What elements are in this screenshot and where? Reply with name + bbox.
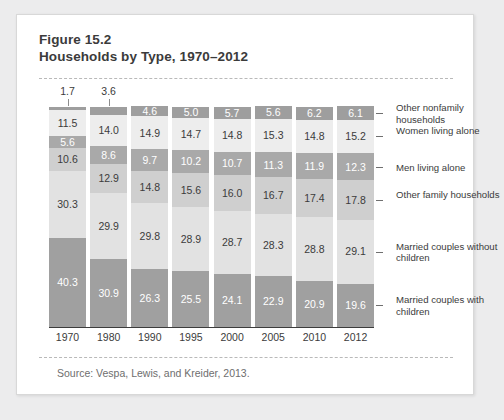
segment-value: 10.6: [57, 154, 77, 165]
segment-1990-3[interactable]: 14.8: [131, 171, 168, 204]
segment-2000-2[interactable]: 28.7: [214, 211, 251, 274]
segment-value: 11.5: [58, 118, 78, 129]
segment-1970-1[interactable]: 40.3: [49, 238, 86, 327]
segment-value: 5.6: [60, 137, 75, 148]
bar-1970[interactable]: 11.55.610.630.340.3: [49, 107, 86, 328]
segment-value: 15.2: [345, 131, 365, 142]
legend-item-1[interactable]: Other nonfamily households: [396, 102, 504, 125]
segment-1995-3[interactable]: 15.6: [172, 173, 209, 207]
segment-value: 8.6: [101, 150, 116, 161]
segment-value: 9.7: [142, 155, 157, 166]
segment-1995-4[interactable]: 10.2: [172, 150, 209, 172]
bar-2000[interactable]: 5.714.810.716.028.724.1: [214, 107, 251, 328]
segment-value: 25.5: [181, 294, 201, 305]
legend-item-4[interactable]: Other family households: [396, 189, 504, 201]
stacked-bar-chart: 11.55.610.630.340.31.7197014.08.612.929.…: [17, 15, 475, 396]
legend-item-6[interactable]: Married couples with children: [396, 294, 504, 317]
segment-value: 17.4: [304, 193, 324, 204]
segment-2000-1[interactable]: 24.1: [214, 274, 251, 327]
bar-2005[interactable]: 5.615.311.316.728.322.9: [255, 106, 292, 327]
segment-1990-2[interactable]: 29.8: [131, 203, 168, 269]
bar-2010[interactable]: 6.214.811.917.428.820.9: [296, 107, 333, 328]
segment-value: 28.7: [222, 237, 242, 248]
segment-value: 11.9: [305, 161, 325, 172]
segment-1995-2[interactable]: 28.9: [172, 207, 209, 271]
segment-2000-5[interactable]: 14.8: [214, 119, 251, 152]
segment-1990-1[interactable]: 26.3: [131, 269, 168, 327]
segment-value: 14.7: [181, 129, 201, 140]
segment-2010-2[interactable]: 28.8: [296, 217, 333, 281]
segment-value: 29.8: [140, 231, 160, 242]
bar-1995[interactable]: 5.014.710.215.628.925.5: [172, 107, 209, 327]
segment-1970-3[interactable]: 10.6: [49, 148, 86, 171]
segment-2012-1[interactable]: 19.6: [337, 284, 374, 327]
segment-1990-4[interactable]: 9.7: [131, 149, 168, 170]
segment-2000-4[interactable]: 10.7: [214, 152, 251, 176]
segment-2012-4[interactable]: 12.3: [337, 153, 374, 180]
x-axis-label-2005: 2005: [255, 331, 292, 343]
segment-value: 12.9: [98, 173, 118, 184]
segment-1980-4[interactable]: 8.6: [90, 146, 127, 165]
x-axis-label-1990: 1990: [131, 331, 168, 343]
segment-2010-4[interactable]: 11.9: [296, 153, 333, 179]
segment-value: 14.8: [140, 182, 160, 193]
legend-leader-line: [376, 167, 383, 168]
segment-1995-1[interactable]: 25.5: [172, 271, 209, 327]
legend-leader-line: [376, 305, 383, 306]
segment-value: 16.0: [222, 188, 242, 199]
segment-2005-5[interactable]: 15.3: [255, 119, 292, 153]
bar-1990[interactable]: 4.614.99.714.829.826.3: [131, 106, 168, 327]
segment-1980-1[interactable]: 30.9: [90, 259, 127, 327]
segment-2000-6[interactable]: 5.7: [214, 107, 251, 120]
segment-value: 14.8: [304, 131, 324, 142]
x-axis-label-2000: 2000: [214, 331, 251, 343]
segment-2005-3[interactable]: 16.7: [255, 177, 292, 214]
segment-2005-4[interactable]: 11.3: [255, 152, 292, 177]
segment-2012-6[interactable]: 6.1: [337, 106, 374, 119]
tick-1970: [68, 99, 69, 106]
segment-2005-6[interactable]: 5.6: [255, 106, 292, 118]
segment-1980-3[interactable]: 12.9: [90, 164, 127, 192]
segment-value: 24.1: [222, 295, 242, 306]
segment-value: 14.8: [222, 130, 242, 141]
bar-2012[interactable]: 6.115.212.317.829.119.6: [337, 106, 374, 327]
bar-1980[interactable]: 14.08.612.929.930.9: [90, 107, 127, 327]
segment-2012-2[interactable]: 29.1: [337, 220, 374, 284]
segment-1995-6[interactable]: 5.0: [172, 107, 209, 118]
segment-1970-5[interactable]: 11.5: [49, 110, 86, 135]
segment-2005-1[interactable]: 22.9: [255, 276, 292, 326]
legend-item-3[interactable]: Men living alone: [396, 162, 504, 174]
segment-1990-5[interactable]: 14.9: [131, 116, 168, 149]
x-axis-label-2012: 2012: [337, 331, 374, 343]
segment-value: 28.8: [304, 244, 324, 255]
legend-item-5[interactable]: Married couples without children: [396, 241, 504, 264]
segment-value: 26.3: [140, 293, 160, 304]
legend-item-2[interactable]: Women living alone: [396, 125, 504, 137]
segment-1990-6[interactable]: 4.6: [131, 106, 168, 116]
segment-1970-4[interactable]: 5.6: [49, 136, 86, 148]
segment-value: 5.0: [184, 107, 199, 118]
segment-2012-5[interactable]: 15.2: [337, 120, 374, 154]
segment-1980-2[interactable]: 29.9: [90, 193, 127, 259]
segment-value: 28.9: [181, 234, 201, 245]
top-value-label-1980: 3.6: [90, 85, 127, 97]
tick-1980: [109, 99, 110, 106]
segment-2005-2[interactable]: 28.3: [255, 214, 292, 276]
segment-value: 28.3: [263, 240, 283, 251]
segment-2010-3[interactable]: 17.4: [296, 179, 333, 217]
segment-2010-6[interactable]: 6.2: [296, 107, 333, 121]
segment-2012-3[interactable]: 17.8: [337, 180, 374, 219]
segment-1980-5[interactable]: 14.0: [90, 115, 127, 146]
segment-1980-6[interactable]: [90, 107, 127, 115]
legend-leader-line: [376, 113, 383, 114]
segment-2010-1[interactable]: 20.9: [296, 281, 333, 327]
segment-value: 6.2: [307, 108, 322, 119]
segment-value: 19.6: [345, 300, 365, 311]
segment-2000-3[interactable]: 16.0: [214, 175, 251, 210]
segment-1970-2[interactable]: 30.3: [49, 171, 86, 238]
source-note: Source: Vespa, Lewis, and Kreider, 2013.: [57, 367, 250, 379]
x-axis-line: [49, 327, 374, 328]
segment-value: 29.1: [345, 246, 365, 257]
segment-1995-5[interactable]: 14.7: [172, 118, 209, 150]
segment-2010-5[interactable]: 14.8: [296, 120, 333, 153]
